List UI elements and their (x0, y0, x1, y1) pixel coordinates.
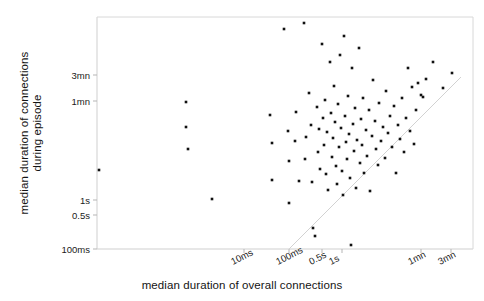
data-point (387, 132, 390, 135)
data-point (337, 103, 340, 106)
data-point (287, 130, 290, 133)
data-point (332, 137, 335, 140)
data-point (318, 128, 321, 131)
data-point (354, 107, 357, 110)
data-point (336, 183, 339, 186)
data-point (366, 155, 369, 158)
data-point (334, 121, 337, 124)
data-point (413, 143, 416, 146)
data-point (411, 86, 414, 89)
data-point (342, 194, 345, 197)
data-point (363, 172, 366, 175)
data-point (305, 136, 308, 139)
data-point (352, 123, 355, 126)
data-point (355, 187, 358, 190)
data-point (393, 105, 396, 108)
data-point (382, 126, 385, 129)
data-point (349, 177, 352, 180)
data-point (338, 146, 341, 149)
data-point (378, 102, 381, 105)
y-axis-title-text: median duration of connectionsduring epi… (18, 8, 44, 258)
data-point (308, 92, 311, 95)
data-point (351, 67, 354, 70)
data-point (323, 144, 326, 147)
data-point (399, 138, 402, 141)
data-point (298, 180, 301, 183)
tick-marks (93, 75, 451, 253)
data-point (359, 162, 362, 165)
data-point (319, 168, 322, 171)
data-point (304, 158, 307, 161)
data-point (395, 172, 398, 175)
data-point (316, 106, 319, 109)
data-point (415, 109, 418, 112)
data-point (347, 95, 350, 98)
data-point (371, 135, 374, 138)
data-point (372, 79, 375, 82)
data-point (362, 97, 365, 100)
data-point (389, 115, 392, 118)
data-point (385, 90, 388, 93)
data-point (288, 160, 291, 163)
data-point (377, 164, 380, 167)
data-point (405, 117, 408, 120)
data-point (345, 141, 348, 144)
data-point (368, 109, 371, 112)
data-point (295, 111, 298, 114)
data-point (409, 130, 412, 133)
data-point (422, 96, 425, 99)
y-axis-title: median duration of connectionsduring epi… (18, 8, 48, 258)
data-point (432, 61, 435, 64)
data-point (303, 22, 306, 25)
data-point (358, 47, 361, 50)
data-point (187, 148, 190, 151)
data-point (283, 28, 286, 31)
data-point (360, 118, 363, 121)
data-point (322, 117, 325, 120)
data-point (417, 82, 420, 85)
data-point (310, 124, 313, 127)
data-point (391, 146, 394, 149)
data-point (324, 99, 327, 102)
data-point (442, 87, 445, 90)
data-point (348, 133, 351, 136)
data-point (403, 151, 406, 154)
data-point (335, 165, 338, 168)
data-point (365, 129, 368, 132)
data-point (330, 112, 333, 115)
data-point (353, 150, 356, 153)
data-point (374, 120, 377, 123)
data-point (346, 158, 349, 161)
data-point (327, 189, 330, 192)
data-point (356, 139, 359, 142)
data-point (425, 78, 428, 81)
data-point (401, 97, 404, 100)
diagonal-reference-line (288, 77, 461, 250)
data-point (369, 190, 372, 193)
data-point (271, 142, 274, 145)
x-axis-title: median duration of overall connections (0, 279, 484, 292)
reference-line (288, 77, 461, 250)
data-point (317, 151, 320, 154)
data-point (185, 101, 188, 104)
data-point (361, 144, 364, 147)
data-point (321, 43, 324, 46)
data-point (98, 169, 101, 172)
data-point (294, 140, 297, 143)
data-point (271, 179, 274, 182)
data-point (329, 61, 332, 64)
data-point (326, 131, 329, 134)
plot-frame (97, 17, 473, 249)
data-point (340, 127, 343, 130)
data-point (339, 54, 342, 57)
data-point (341, 170, 344, 173)
data-point (380, 140, 383, 143)
data-point (312, 227, 315, 230)
data-point (211, 198, 214, 201)
data-point (314, 235, 317, 238)
data-point (343, 35, 346, 38)
scatter-plot-figure: 3mn1mn1s0.5s100ms 10ms100ms0.5s1s1mn3mn … (0, 0, 484, 301)
data-point (350, 244, 353, 247)
data-point-layer (98, 22, 454, 247)
data-point (333, 85, 336, 88)
